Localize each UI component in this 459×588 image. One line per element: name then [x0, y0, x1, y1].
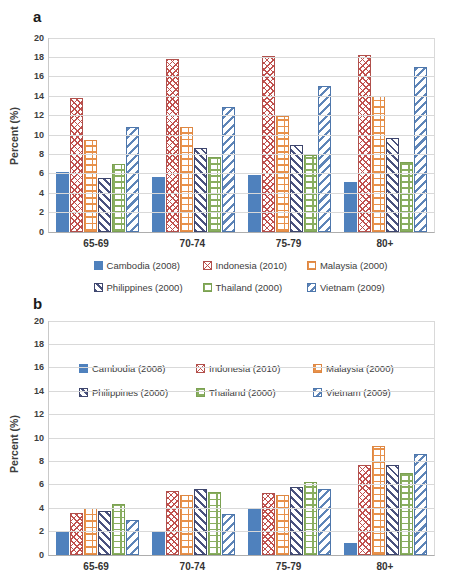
panel-b: b Percent (%) 20181614121086420 Cambodia… [0, 288, 459, 588]
y-tick-label: 20 [14, 316, 44, 327]
legend-swatch-grid-ladder-icon [307, 261, 316, 270]
bar [56, 532, 69, 555]
bar [262, 56, 275, 232]
gridline [49, 193, 434, 194]
panel-b-x-tick-labels: 65-6970-7475-7980+ [48, 561, 433, 572]
legend-swatch-diagonal-up-icon [313, 388, 322, 397]
gridline [49, 173, 434, 174]
y-tick-label: 12 [14, 409, 44, 420]
bar [222, 107, 235, 232]
panel-b-label: b [33, 295, 42, 312]
gridline [49, 391, 434, 392]
bar [400, 473, 413, 555]
bar [98, 178, 111, 232]
legend-swatch-diagonal-crosshatch-icon [203, 261, 212, 270]
gridline [49, 414, 434, 415]
bar [180, 127, 193, 232]
bar [414, 454, 427, 555]
bar [70, 513, 83, 555]
gridline [49, 38, 434, 39]
panel-b-plot-area: Cambodia (2008)Indonesia (2010)Malaysia … [48, 321, 435, 556]
x-tick-label: 70-74 [144, 238, 240, 249]
bar [112, 504, 125, 555]
y-tick-label: 4 [14, 188, 44, 199]
gridline [49, 135, 434, 136]
legend-label: Vietnam (2009) [326, 387, 391, 398]
bar [276, 495, 289, 555]
gridline [49, 76, 434, 77]
gridline [49, 438, 434, 439]
legend-label: Cambodia (2008) [107, 260, 180, 271]
x-tick-label: 65-69 [48, 561, 144, 572]
bar [414, 67, 427, 232]
legend-label: Indonesia (2010) [209, 363, 280, 374]
legend-item: Indonesia (2010) [196, 363, 313, 374]
bar [344, 543, 357, 555]
gridline [49, 367, 434, 368]
y-tick-label: 10 [14, 130, 44, 141]
bar [208, 492, 221, 555]
panel-a: a Percent (%) 20181614121086420 65-6970-… [0, 0, 459, 296]
gridline [49, 212, 434, 213]
y-tick-label: 6 [14, 479, 44, 490]
y-tick-label: 8 [14, 456, 44, 467]
bar [304, 482, 317, 555]
gridline [49, 344, 434, 345]
y-tick-label: 18 [14, 339, 44, 350]
gridline [49, 57, 434, 58]
bar [358, 55, 371, 232]
legend-swatch-diagonal-down-icon [79, 388, 88, 397]
legend-item: Thailand (2000) [196, 387, 313, 398]
gridline [49, 484, 434, 485]
x-tick-label: 65-69 [48, 238, 144, 249]
x-tick-label: 80+ [337, 561, 433, 572]
bar [56, 172, 69, 232]
legend-item: Indonesia (2010) [203, 260, 287, 271]
y-tick-label: 4 [14, 503, 44, 514]
bar [304, 155, 317, 232]
bar [386, 138, 399, 232]
gridline [49, 96, 434, 97]
legend-swatch-brick-icon [196, 388, 205, 397]
y-tick-label: 0 [14, 550, 44, 561]
y-tick-label: 10 [14, 433, 44, 444]
x-tick-label: 70-74 [144, 561, 240, 572]
y-tick-label: 2 [14, 207, 44, 218]
legend-item: Malaysia (2000) [313, 363, 430, 374]
y-tick-label: 16 [14, 362, 44, 373]
legend-item: Malaysia (2000) [307, 260, 388, 271]
legend-item: Cambodia (2008) [79, 363, 196, 374]
legend-swatch-grid-ladder-icon [313, 364, 322, 373]
gridline [49, 154, 434, 155]
y-tick-label: 14 [14, 386, 44, 397]
bar [194, 148, 207, 232]
legend-label: Malaysia (2000) [320, 260, 388, 271]
y-tick-label: 12 [14, 110, 44, 121]
gridline [49, 461, 434, 462]
y-tick-label: 6 [14, 168, 44, 179]
y-tick-label: 14 [14, 91, 44, 102]
gridline [49, 508, 434, 509]
bar [166, 59, 179, 232]
bar [194, 489, 207, 555]
two-panel-bar-chart-figure: a Percent (%) 20181614121086420 65-6970-… [0, 0, 459, 588]
legend-label: Malaysia (2000) [326, 363, 394, 374]
legend-item: Cambodia (2008) [94, 260, 183, 271]
bar [290, 145, 303, 232]
gridline [49, 531, 434, 532]
bar [344, 182, 357, 232]
y-tick-label: 0 [14, 227, 44, 238]
bar [248, 509, 261, 555]
panel-a-plot-area [48, 38, 435, 233]
y-tick-label: 16 [14, 71, 44, 82]
bar [248, 175, 261, 232]
legend-label: Indonesia (2010) [216, 260, 287, 271]
bar [318, 86, 331, 232]
bar [166, 491, 179, 555]
bar [386, 465, 399, 555]
legend-label: Philippines (2000) [92, 387, 168, 398]
legend-item: Vietnam (2009) [313, 387, 430, 398]
bar [180, 495, 193, 555]
legend-swatch-diagonal-crosshatch-icon [196, 364, 205, 373]
y-tick-label: 18 [14, 52, 44, 63]
